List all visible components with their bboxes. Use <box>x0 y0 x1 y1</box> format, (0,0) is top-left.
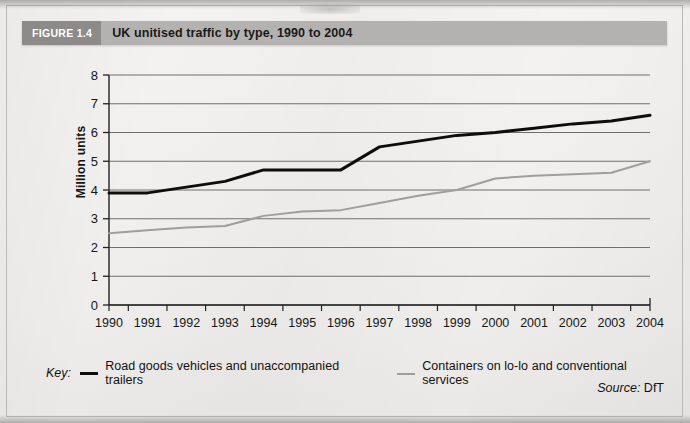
x-axis-tick-label: 1993 <box>211 316 239 330</box>
y-axis-tick-label: 8 <box>91 68 98 83</box>
legend-swatch-containers-icon <box>397 373 415 375</box>
x-axis-tick-label: 1997 <box>366 316 394 330</box>
scanned-page: FIGURE 1.4 UK unitised traffic by type, … <box>0 0 690 423</box>
figure-title: UK unitised traffic by type, 1990 to 200… <box>101 21 352 45</box>
legend-key-label: Key: <box>46 366 71 380</box>
chart-legend: Key: Road goods vehicles and unaccompani… <box>46 359 666 387</box>
x-axis-tick-label: 1992 <box>172 316 200 330</box>
data-series-line-1 <box>109 115 650 193</box>
figure-number-tag: FIGURE 1.4 <box>22 21 101 45</box>
x-axis-tick-label: 2003 <box>597 316 625 330</box>
y-axis-tick-label: 2 <box>91 240 98 255</box>
source-prefix: Source: <box>597 381 640 395</box>
y-axis-tick-label: 7 <box>91 96 98 111</box>
x-axis-tick-label: 1996 <box>327 316 355 330</box>
figure-title-bar: FIGURE 1.4 UK unitised traffic by type, … <box>22 21 667 45</box>
legend-item-road-goods: Road goods vehicles and unaccompanied tr… <box>80 359 369 387</box>
y-axis-tick-label: 4 <box>91 183 98 198</box>
y-axis-tick-label: 1 <box>91 269 98 284</box>
y-axis-tick-label: 6 <box>91 125 98 140</box>
legend-label-road-goods: Road goods vehicles and unaccompanied tr… <box>105 359 369 387</box>
x-axis-tick-label: 1990 <box>95 316 123 330</box>
y-axis-tick-label: 5 <box>91 154 98 169</box>
y-axis-tick-label: 3 <box>91 211 98 226</box>
x-axis-tick-label: 2000 <box>482 316 510 330</box>
x-axis-tick-label: 1998 <box>404 316 432 330</box>
x-axis-tick-label: 2002 <box>559 316 587 330</box>
x-axis-tick-label: 1991 <box>134 316 162 330</box>
x-axis-tick-label: 1995 <box>288 316 316 330</box>
legend-swatch-road-goods-icon <box>80 372 98 375</box>
x-axis-tick-label: 2004 <box>636 316 664 330</box>
chart-container: Million units 01234567819901991199219931… <box>22 52 667 352</box>
x-axis-tick-label: 2001 <box>520 316 548 330</box>
line-chart-plot: 0123456781990199119921993199419951996199… <box>22 52 667 352</box>
y-axis-tick-label: 0 <box>91 298 98 313</box>
source-value: DfT <box>644 381 664 395</box>
data-series-line-2 <box>109 161 650 233</box>
source-note: Source: DfT <box>597 381 664 395</box>
x-axis-tick-label: 1994 <box>250 316 278 330</box>
x-axis-tick-label: 1999 <box>443 316 471 330</box>
